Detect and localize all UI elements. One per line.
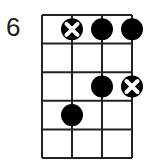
- chord-grid: [0, 0, 149, 164]
- finger-dot: [91, 76, 113, 98]
- finger-dot: [91, 18, 113, 40]
- finger-dot: [121, 18, 143, 40]
- finger-dot: [61, 104, 83, 126]
- fretboard-grid: [42, 15, 132, 158]
